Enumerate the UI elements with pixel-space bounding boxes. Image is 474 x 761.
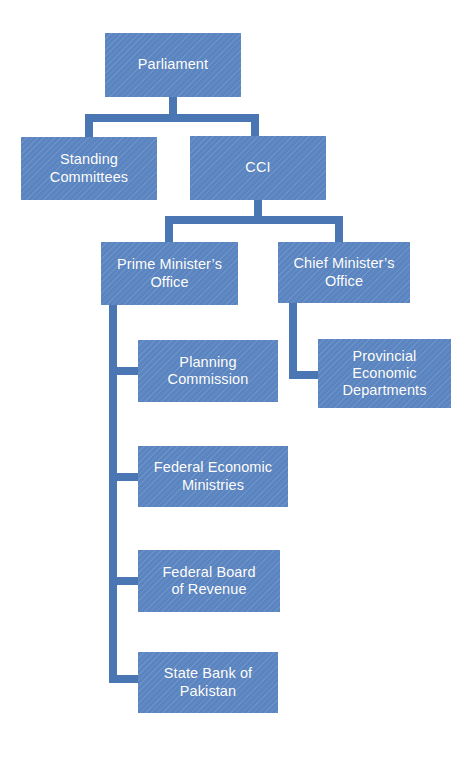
connector-pm-office-to-state-bank-of-pakistan (109, 675, 140, 683)
node-federal-board-of-revenue[interactable]: Federal Board of Revenue (138, 550, 280, 612)
connector-cm-office-trunk (289, 303, 297, 379)
connector-pm-office-to-federal-board-of-revenue (109, 577, 140, 585)
connector-cci-to-chief-ministers-office (335, 216, 343, 243)
node-standing-committees[interactable]: Standing Committees (21, 137, 157, 200)
connector-pm-office-trunk (109, 305, 117, 683)
connector-parliament-to-cci (251, 114, 259, 138)
connector-pm-office-to-planning-commission (109, 367, 140, 375)
connector-parliament-bus (85, 114, 259, 122)
connector-cci-to-prime-ministers-office (165, 216, 173, 243)
node-prime-ministers-office[interactable]: Prime Minister’s Office (101, 242, 238, 305)
connector-cm-office-to-provincial-economic-departments (289, 371, 320, 379)
node-chief-ministers-office[interactable]: Chief Minister’s Office (278, 242, 410, 303)
node-federal-economic-ministries[interactable]: Federal Economic Ministries (138, 446, 288, 507)
connector-parliament-to-standing-committees (85, 114, 93, 138)
node-provincial-economic-departments[interactable]: Provincial Economic Departments (318, 339, 451, 408)
connector-pm-office-to-federal-economic-ministries (109, 473, 140, 481)
node-state-bank-of-pakistan[interactable]: State Bank of Pakistan (138, 652, 278, 713)
node-parliament[interactable]: Parliament (105, 33, 241, 97)
connector-cci-bus (165, 216, 343, 224)
org-chart-canvas: Parliament Standing Committees CCI Prime… (0, 0, 474, 761)
node-cci[interactable]: CCI (190, 136, 326, 200)
node-planning-commission[interactable]: Planning Commission (138, 340, 278, 402)
